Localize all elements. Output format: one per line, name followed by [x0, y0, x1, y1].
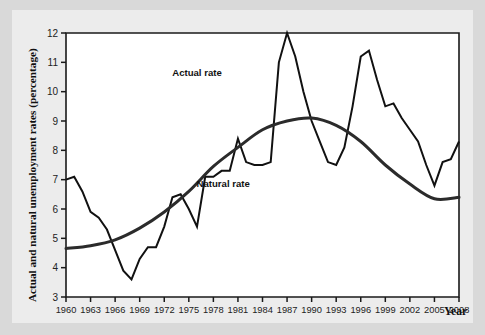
x-axis-tick-label: 1999	[375, 305, 396, 315]
x-axis-tick-label: 2002	[400, 305, 421, 315]
y-axis-tick-label: 11	[48, 57, 59, 68]
actual-rate-label: Actual rate	[172, 67, 222, 78]
y-axis-tick-label: 10	[47, 86, 59, 97]
x-axis-tick-label: 1990	[301, 305, 322, 315]
x-axis-tick-label: 1975	[178, 305, 199, 315]
x-axis-tick-label: 1969	[129, 305, 150, 315]
x-axis-tick-label: 1993	[326, 305, 347, 315]
x-axis-tick-label: 1966	[105, 305, 126, 315]
y-axis-tick-label: 6	[52, 204, 58, 215]
x-axis-tick-label: 1963	[80, 305, 101, 315]
chart-figure: Actual and natural unemployment rates (p…	[12, 10, 473, 323]
x-axis-tick-label: 2005	[424, 305, 445, 315]
x-axis-tick-label: 1996	[350, 305, 371, 315]
x-axis-tick-label: 1972	[154, 305, 175, 315]
y-axis-tick-label: 9	[52, 116, 58, 127]
x-axis-title: Year	[444, 305, 467, 317]
y-axis-tick-label: 7	[52, 174, 58, 185]
natural-rate-label: Natural rate	[197, 178, 250, 189]
x-axis-tick-label: 1960	[56, 305, 77, 315]
x-axis-tick-label: 1984	[252, 305, 273, 315]
y-axis-tick-label: 8	[52, 145, 58, 156]
x-axis-tick-label: 1981	[228, 305, 249, 315]
y-axis-tick-label: 4	[52, 262, 58, 273]
y-axis-tick-label: 12	[47, 28, 59, 39]
y-axis-tick-label: 3	[52, 292, 58, 303]
unemployment-line-chart: 3456789101112196019631966196919721975197…	[12, 10, 473, 323]
y-axis-tick-label: 5	[52, 233, 58, 244]
x-axis-tick-label: 1987	[277, 305, 298, 315]
x-axis-tick-label: 1978	[203, 305, 224, 315]
